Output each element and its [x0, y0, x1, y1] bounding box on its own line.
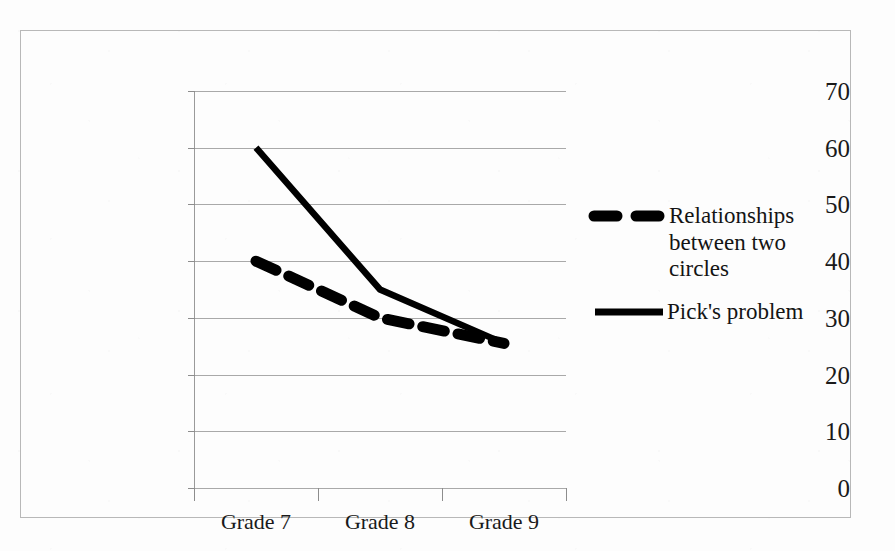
series-line-1	[256, 261, 504, 343]
legend-entry-relationships: Relationships between two circles	[591, 203, 861, 283]
x-axis-tick	[318, 488, 319, 501]
plot-area	[194, 91, 566, 488]
y-axis-tick-label: 0	[695, 476, 850, 501]
chart-outer-frame: 706050403020100 Grade 7Grade 8Grade 9 Re…	[20, 30, 851, 518]
legend-label-line-3: circles	[669, 256, 729, 281]
legend: Relationships between two circles Pick's…	[591, 203, 861, 326]
solid-line-swatch-icon	[591, 299, 665, 325]
series-line-2	[256, 148, 504, 344]
y-axis-tick-label: 70	[695, 79, 850, 104]
legend-entry-picks-problem: Pick's problem	[591, 299, 861, 326]
x-axis-tick	[442, 488, 443, 501]
x-axis-tick-label: Grade 8	[318, 511, 442, 533]
series-lines	[194, 91, 566, 488]
legend-label-relationships: Relationships between two circles	[665, 203, 794, 283]
chart-page: 706050403020100 Grade 7Grade 8Grade 9 Re…	[0, 0, 895, 551]
legend-label-line-1: Relationships	[669, 203, 794, 228]
y-axis-tick-label: 20	[695, 363, 850, 388]
y-axis-tick-label: 60	[695, 136, 850, 161]
legend-label-picks-problem: Pick's problem	[665, 299, 803, 326]
gridline	[194, 488, 566, 489]
x-axis-tick	[194, 488, 195, 501]
legend-label-line-2: between two	[669, 230, 786, 255]
y-axis-tick-label: 10	[695, 419, 850, 444]
dashed-line-swatch-icon	[591, 203, 665, 229]
x-axis-tick-label: Grade 7	[194, 511, 318, 533]
x-axis-tick-label: Grade 9	[442, 511, 566, 533]
x-axis-tick	[566, 488, 567, 501]
